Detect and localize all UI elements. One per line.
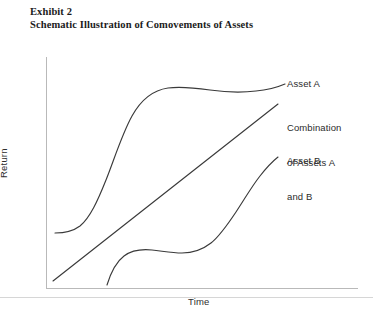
series-label-asset-a: Asset A	[287, 78, 320, 90]
series-label-combination-line-1: Combination	[287, 122, 341, 134]
series-label-combination-line-3: and B	[287, 191, 341, 203]
exhibit-figure: Exhibit 2 Schematic Illustration of Como…	[0, 0, 373, 316]
series-label-asset-b: Asset B	[287, 155, 320, 167]
series-line-asset-b	[107, 157, 278, 285]
series-line-combination	[53, 104, 278, 281]
series-line-asset-a	[55, 84, 285, 233]
